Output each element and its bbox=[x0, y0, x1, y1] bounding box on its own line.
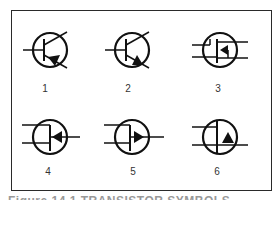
symbol-label-6: 6 bbox=[207, 166, 227, 177]
transistor-symbol-1-icon bbox=[20, 25, 80, 75]
figure-caption: Figure 14.1 TRANSISTOR SYMBOLS bbox=[8, 194, 230, 200]
symbol-label-5: 5 bbox=[123, 166, 143, 177]
transistor-symbol-3-icon bbox=[190, 25, 250, 75]
symbol-label-3: 3 bbox=[208, 83, 228, 94]
symbol-label-2: 2 bbox=[118, 83, 138, 94]
transistor-symbol-2-icon bbox=[102, 25, 162, 75]
transistor-symbol-4-icon bbox=[20, 115, 82, 160]
symbol-label-1: 1 bbox=[35, 83, 55, 94]
symbol-label-4: 4 bbox=[38, 166, 58, 177]
transistor-symbol-6-icon bbox=[190, 115, 250, 160]
transistor-symbol-5-icon bbox=[102, 115, 166, 160]
